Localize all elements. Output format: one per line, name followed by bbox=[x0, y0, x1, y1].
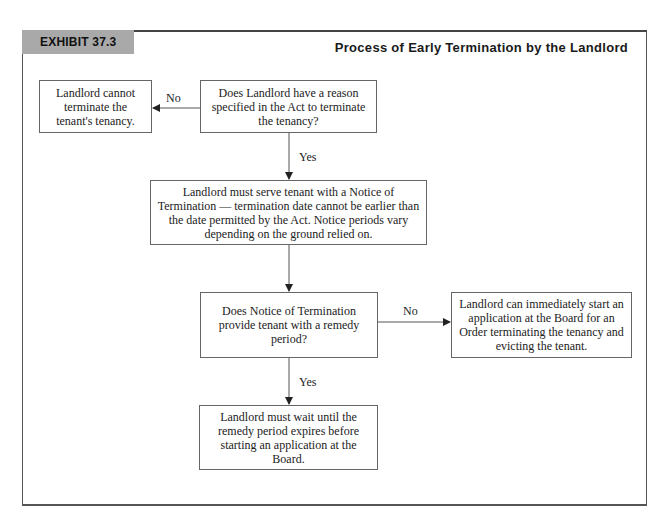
edge-label-reason-yes: Yes bbox=[299, 150, 316, 165]
edge-label-remedy-no: No bbox=[403, 304, 418, 319]
node-cannot-terminate: Landlord cannot terminate the tenant's t… bbox=[39, 80, 152, 133]
node-remedy-question: Does Notice of Termination provide tenan… bbox=[200, 292, 378, 358]
edge-label-reason-no: No bbox=[166, 91, 181, 106]
node-start-application: Landlord can immediately start an applic… bbox=[451, 292, 632, 358]
node-serve-notice: Landlord must serve tenant with a Notice… bbox=[150, 180, 427, 245]
node-reason-question: Does Landlord have a reason specified in… bbox=[200, 80, 377, 133]
node-wait-remedy: Landlord must wait until the remedy peri… bbox=[199, 405, 378, 470]
edge-label-remedy-yes: Yes bbox=[299, 375, 316, 390]
